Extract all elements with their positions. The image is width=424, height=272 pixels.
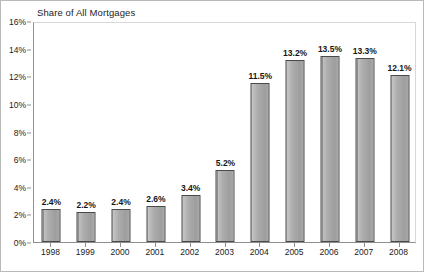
bar[interactable] — [355, 58, 374, 242]
x-axis-tick-label: 2004 — [250, 247, 269, 257]
bar-group: 2.6% — [138, 23, 173, 242]
bar-value-label: 2.6% — [146, 194, 165, 204]
y-axis-tick-label: 2% — [14, 210, 26, 220]
y-axis-tick-mark — [27, 49, 31, 50]
bar-value-label: 5.2% — [216, 158, 235, 168]
y-axis-tick-label: 8% — [14, 128, 26, 138]
y-axis-tick-mark — [27, 22, 31, 23]
x-axis-tick-label: 1998 — [41, 247, 60, 257]
y-axis-tick-label: 0% — [14, 238, 26, 248]
bar[interactable] — [286, 60, 305, 242]
bar-group: 13.5% — [313, 23, 348, 242]
bar[interactable] — [251, 83, 270, 242]
bar-value-label: 13.2% — [283, 48, 307, 58]
bars-layer: 2.4%2.2%2.4%2.6%3.4%5.2%11.5%13.2%13.5%1… — [34, 23, 415, 242]
chart-container: Share of All Mortgages 0%2%4%6%8%10%12%1… — [0, 0, 424, 272]
x-axis-tick-label: 2003 — [215, 247, 234, 257]
y-axis-tick-mark — [27, 77, 31, 78]
bar[interactable] — [216, 170, 235, 242]
bar-value-label: 12.1% — [388, 63, 412, 73]
x-axis-tick-label: 2008 — [389, 247, 408, 257]
y-axis-tick-mark — [27, 215, 31, 216]
x-axis-tick-label: 2007 — [354, 247, 373, 257]
y-axis: 0%2%4%6%8%10%12%14%16% — [1, 22, 31, 243]
x-axis-tick-label: 2006 — [319, 247, 338, 257]
bar[interactable] — [77, 212, 96, 242]
bar-value-label: 13.5% — [318, 44, 342, 54]
bar[interactable] — [181, 195, 200, 242]
bar[interactable] — [320, 56, 339, 242]
bar-value-label: 2.4% — [42, 197, 61, 207]
bar-group: 12.1% — [382, 23, 417, 242]
bar-value-label: 11.5% — [248, 71, 272, 81]
y-axis-tick-label: 10% — [9, 100, 26, 110]
y-axis-tick-label: 16% — [9, 17, 26, 27]
y-axis-tick-label: 12% — [9, 72, 26, 82]
bar-group: 2.4% — [104, 23, 139, 242]
x-axis: 1998199920002001200220032004200520062007… — [33, 247, 416, 263]
bar-value-label: 13.3% — [353, 46, 377, 56]
bar-group: 11.5% — [243, 23, 278, 242]
bar-value-label: 2.2% — [77, 200, 96, 210]
y-axis-tick-label: 6% — [14, 155, 26, 165]
bar-group: 13.2% — [278, 23, 313, 242]
bar-group: 2.2% — [69, 23, 104, 242]
bar-group: 3.4% — [173, 23, 208, 242]
plot-area: 2.4%2.2%2.4%2.6%3.4%5.2%11.5%13.2%13.5%1… — [33, 22, 416, 243]
bar[interactable] — [390, 75, 409, 242]
bar[interactable] — [112, 209, 131, 242]
chart-title: Share of All Mortgages — [37, 7, 135, 18]
y-axis-tick-mark — [27, 243, 31, 244]
x-axis-tick-label: 1999 — [76, 247, 95, 257]
y-axis-tick-mark — [27, 160, 31, 161]
y-axis-tick-mark — [27, 132, 31, 133]
y-axis-tick-label: 14% — [9, 45, 26, 55]
y-axis-tick-mark — [27, 104, 31, 105]
bar[interactable] — [146, 206, 165, 242]
y-axis-tick-mark — [27, 187, 31, 188]
bar-group: 2.4% — [34, 23, 69, 242]
bar-value-label: 3.4% — [181, 183, 200, 193]
x-axis-tick-label: 2005 — [285, 247, 304, 257]
bar[interactable] — [42, 209, 61, 242]
bar-group: 13.3% — [347, 23, 382, 242]
x-axis-tick-label: 2001 — [145, 247, 164, 257]
x-axis-tick-label: 2002 — [180, 247, 199, 257]
x-axis-tick-label: 2000 — [111, 247, 130, 257]
bar-value-label: 2.4% — [111, 197, 130, 207]
bar-group: 5.2% — [208, 23, 243, 242]
y-axis-tick-label: 4% — [14, 183, 26, 193]
